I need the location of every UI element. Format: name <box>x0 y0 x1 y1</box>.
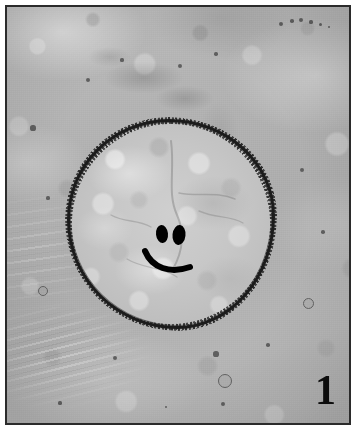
tissue-punctate-dot <box>321 230 325 234</box>
tissue-punctate-dot <box>299 18 303 22</box>
tissue-punctate-dot <box>309 20 312 23</box>
tissue-ring-structure <box>303 298 314 309</box>
tissue-ring-structure <box>38 286 48 296</box>
encysted-circular-structure <box>67 119 275 329</box>
tissue-punctate-dot <box>178 64 182 68</box>
tissue-punctate-dot <box>120 58 123 61</box>
tissue-ring-structure <box>218 374 232 388</box>
tissue-punctate-dot <box>213 351 218 356</box>
tissue-punctate-dot <box>290 19 294 23</box>
micrograph-frame: 1 <box>5 5 351 425</box>
tissue-punctate-dot <box>214 52 217 55</box>
figure-number: 1 <box>315 369 336 411</box>
micrograph-canvas <box>7 7 349 423</box>
figure-plate: 1 <box>0 0 356 430</box>
tissue-punctate-dot <box>300 168 304 172</box>
tissue-punctate-dot <box>46 196 49 199</box>
tissue-punctate-dot <box>30 125 35 130</box>
tissue-punctate-dot <box>319 23 322 26</box>
tissue-punctate-dot <box>58 401 61 404</box>
tissue-punctate-dot <box>221 402 225 406</box>
tissue-punctate-dot <box>266 343 270 347</box>
